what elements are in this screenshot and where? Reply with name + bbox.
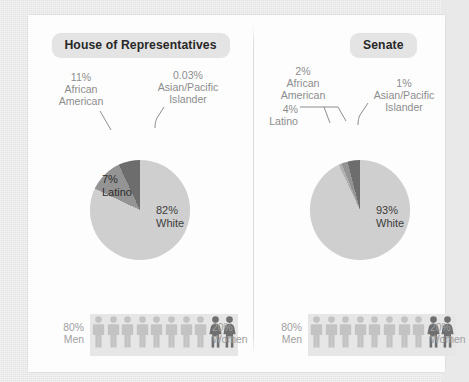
pie-label-name: Latino [102, 186, 132, 199]
male-figure-icon [325, 316, 338, 352]
callout-line2: American [260, 89, 346, 101]
women-pct: 20% [430, 322, 466, 334]
women-pct: 20% [212, 322, 248, 334]
callout-asian-pacific-islander-house: 0.03% Asian/Pacific Islander [136, 69, 240, 106]
callout-asian-pacific-islander-senate: 1% Asian/Pacific Islander [352, 77, 456, 114]
gender-label-men-senate: 80% Men [260, 322, 302, 345]
callout-line1: African [38, 83, 124, 95]
women-word: Women [212, 334, 248, 346]
male-figure-icon [165, 316, 178, 352]
male-figure-icon [92, 316, 105, 352]
male-figure-icon [310, 316, 323, 352]
panel-title-senate: Senate [350, 33, 417, 58]
callout-line2: Islander [352, 101, 456, 113]
men-pct: 80% [260, 322, 302, 334]
callout-line1: Asian/Pacific [352, 89, 456, 101]
callout-line1: African [260, 77, 346, 89]
male-figure-icon [339, 316, 352, 352]
male-figure-icon [368, 316, 381, 352]
pie-label-name: White [376, 217, 404, 230]
pie-label-pct: 82% [156, 204, 184, 217]
male-figure-icon [383, 316, 396, 352]
gender-pictogram-senate: 80% Men 20% Women [254, 314, 445, 358]
pie-label-white-house: 82% White [156, 204, 184, 229]
callout-pct: 4% [236, 103, 298, 115]
report-card: House of Representatives 11% African Ame… [28, 15, 445, 372]
callout-african-american-house: 11% African American [38, 71, 124, 108]
panel-house-of-representatives: House of Representatives 11% African Ame… [28, 15, 253, 372]
callout-pct: 2% [260, 65, 346, 77]
callout-line1: Asian/Pacific [136, 81, 240, 93]
male-figure-icon [354, 316, 367, 352]
pie-label-pct: 93% [376, 204, 404, 217]
callout-pct: 1% [352, 77, 456, 89]
callout-line2: Islander [136, 93, 240, 105]
men-word: Men [42, 334, 84, 346]
panel-senate: Senate 2% African American 1% Asian/Paci… [254, 15, 445, 372]
pie-label-name: White [156, 217, 184, 230]
men-word: Men [260, 334, 302, 346]
gender-label-women-house: 20% Women [212, 322, 248, 345]
gender-label-men-house: 80% Men [42, 322, 84, 345]
callout-african-american-senate: 2% African American [260, 65, 346, 102]
callout-latino-senate: 4% Latino [236, 103, 298, 127]
male-figure-icon [194, 316, 207, 352]
pie-label-pct: 7% [102, 173, 132, 186]
gender-label-women-senate: 20% Women [430, 322, 466, 345]
male-figure-icon [180, 316, 193, 352]
callout-pct: 0.03% [136, 69, 240, 81]
male-figure-icon [412, 316, 425, 352]
male-figure-icon [150, 316, 163, 352]
pie-label-white-senate: 93% White [376, 204, 404, 229]
callout-pct: 11% [38, 71, 124, 83]
male-figure-icon [121, 316, 134, 352]
gender-pictogram-house: 80% Men 20% Women [28, 314, 253, 358]
male-figure-icon [398, 316, 411, 352]
women-word: Women [430, 334, 466, 346]
callout-line2: American [38, 95, 124, 107]
callout-line1: Latino [236, 115, 298, 127]
male-figure-icon [107, 316, 120, 352]
pie-label-latino-house: 7% Latino [102, 173, 132, 198]
men-pct: 80% [42, 322, 84, 334]
male-figure-icon [136, 316, 149, 352]
panel-title-house: House of Representatives [51, 33, 229, 58]
